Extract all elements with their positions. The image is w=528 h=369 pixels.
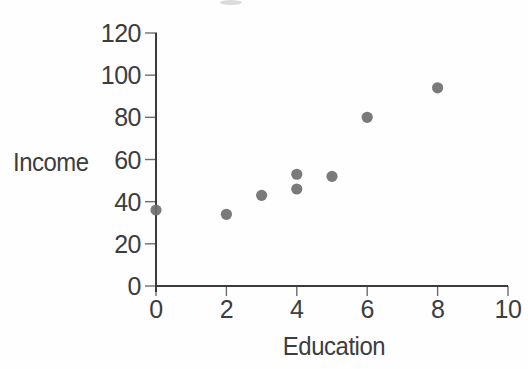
y-tick-label: 60	[114, 146, 141, 174]
data-point	[291, 169, 302, 180]
data-point	[221, 209, 232, 220]
scatter-chart: Income 0204060801001200246810 Education	[0, 0, 528, 369]
data-point	[291, 183, 302, 194]
x-axis-title: Education	[283, 333, 385, 359]
data-point	[150, 205, 161, 216]
plot-area: 0204060801001200246810	[0, 0, 528, 369]
x-tick-label: 4	[290, 295, 304, 323]
x-tick-label: 2	[220, 295, 233, 323]
x-tick-label: 8	[431, 295, 444, 323]
data-point	[362, 112, 373, 123]
y-tick-label: 120	[101, 19, 141, 47]
y-tick-label: 20	[114, 230, 141, 258]
y-tick-label: 80	[114, 103, 141, 131]
x-tick-label: 0	[149, 295, 162, 323]
x-tick-label: 6	[360, 295, 373, 323]
data-point	[256, 190, 267, 201]
y-tick-label: 100	[101, 61, 141, 89]
data-point	[326, 171, 337, 182]
data-point	[432, 82, 443, 93]
scan-artifact-mark	[220, 0, 242, 5]
y-tick-label: 40	[114, 188, 141, 216]
x-tick-label: 10	[495, 295, 522, 323]
y-tick-label: 0	[128, 272, 141, 300]
